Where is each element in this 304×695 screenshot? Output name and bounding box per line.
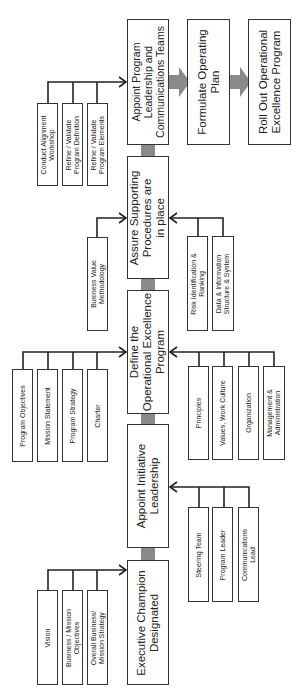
step-appoint-initiative-leadership: Appoint InitiativeLeadership <box>127 424 169 548</box>
input-label: Mission Statement <box>43 387 51 445</box>
input-label: Structure & System <box>223 253 231 313</box>
step-executive-champion: Executive ChampionDesignated <box>127 560 169 685</box>
step-formulate-operating-plan: Formulate OperatingPlan <box>187 19 230 145</box>
step-label: Leadership <box>148 444 161 528</box>
input-label: Program Elements <box>98 116 106 174</box>
input-label: Program Definition <box>73 116 81 174</box>
input-steering-team: Steering Team <box>188 507 209 602</box>
step-label: Operational Excellence <box>141 293 154 411</box>
input-label: Conduct Alignment <box>39 115 47 174</box>
input-label: Workshop <box>48 115 56 174</box>
step-label: Assure Supporting <box>128 170 141 265</box>
input-label: Objectives <box>73 609 81 667</box>
input-label: Program Objectives <box>18 385 26 446</box>
input-vision: Vision <box>37 590 58 685</box>
step-label: Leadership and <box>142 26 154 138</box>
input-label: Charter <box>93 404 101 427</box>
step-define-program: Define theOperational ExcellenceProgram <box>127 290 169 414</box>
step-label: Plan <box>209 29 222 134</box>
input-label: Overall Business/ <box>89 610 97 664</box>
input-program-objectives: Program Objectives <box>12 369 33 462</box>
input-label: Communications <box>240 528 248 580</box>
input-label: Principles <box>194 398 202 428</box>
step-label: Program <box>155 293 168 411</box>
input-refine-program-elements: Refine / ValidateProgram Elements <box>87 103 108 186</box>
input-values-work-culture: Values, Work Culture <box>212 366 233 460</box>
step-label: Procedures are <box>141 170 154 265</box>
input-risk-identification: Risk Identification &Ranking <box>187 236 208 331</box>
step-appoint-program-leadership: Appoint ProgramLeadership andCommunicati… <box>127 19 169 145</box>
input-business-value-methodology: Business ValueMethodology <box>87 237 108 331</box>
input-label: Program Leader <box>218 529 226 580</box>
step-label: Communications Teams <box>154 26 166 138</box>
step-label: Define the <box>128 293 141 411</box>
input-data-information-structure: Data & InformationStructure & System <box>212 236 234 331</box>
input-management-administration: Management &Administration <box>263 366 285 460</box>
step-label: Excellence Program <box>270 30 283 134</box>
input-label: Ranking <box>198 253 206 314</box>
input-label: Refine / Validate <box>64 116 72 174</box>
input-label: Organization <box>244 393 252 433</box>
input-conduct-alignment-workshop: Conduct AlignmentWorkshop <box>37 103 58 186</box>
step-label: in place <box>155 170 168 265</box>
step-label: Appoint Initiative <box>135 444 148 528</box>
input-business-mission-objectives: Business / MissionObjectives <box>62 590 83 685</box>
input-label: Lead <box>249 528 257 580</box>
step-roll-out-program: Roll Out OperationalExcellence Program <box>248 19 291 145</box>
step-label: Roll Out Operational <box>256 30 269 134</box>
step-label: Formulate Operating <box>195 29 208 134</box>
step-label: Executive Champion <box>135 570 148 675</box>
input-label: Business / Mission <box>64 609 72 667</box>
step-label: Appoint Program <box>130 26 142 138</box>
input-communications-lead: CommunicationsLead <box>238 507 259 602</box>
input-label: Methodology <box>98 260 106 308</box>
input-label: Program Strategy <box>68 388 76 443</box>
input-label: Business Value <box>89 260 97 308</box>
input-label: Data & Information <box>215 253 223 313</box>
input-principles: Principles <box>188 366 209 460</box>
step-assure-procedures: Assure SupportingProcedures arein place <box>127 156 169 279</box>
input-label: Risk Identification & <box>189 253 197 314</box>
step-label: Designated <box>148 570 161 675</box>
input-label: Mission Strategy <box>98 610 106 664</box>
input-label: Management & <box>266 389 274 436</box>
input-refine-program-definition: Refine / ValidateProgram Definition <box>62 103 83 186</box>
input-program-strategy: Program Strategy <box>62 369 83 462</box>
input-label: Refine / Validate <box>89 116 97 174</box>
input-charter: Charter <box>87 369 108 462</box>
input-program-leader: Program Leader <box>212 507 233 602</box>
input-label: Steering Team <box>194 532 202 577</box>
input-mission-statement: Mission Statement <box>37 369 58 462</box>
input-label: Vision <box>43 628 51 647</box>
input-label: Values, Work Culture <box>218 380 226 446</box>
input-organization: Organization <box>238 366 259 460</box>
input-label: Administration <box>274 389 282 436</box>
input-overall-business-strategy: Overall Business/Mission Strategy <box>87 590 108 685</box>
